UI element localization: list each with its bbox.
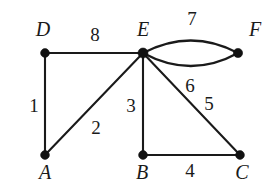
edge-weight-E-F-upper: 7 — [187, 8, 197, 29]
vertex-label-A: A — [37, 161, 52, 183]
edge-weight-B-E: 3 — [126, 95, 136, 116]
vertex-dot-C — [236, 151, 245, 160]
edge-weight-C-E: 5 — [204, 93, 214, 114]
vertex-label-E: E — [136, 18, 149, 40]
vertex-label-B: B — [136, 161, 148, 183]
vertex-dot-D — [41, 49, 50, 58]
vertex-label-group: A B C D E F — [35, 18, 262, 183]
edge-E-F-upper — [143, 41, 238, 54]
edge-weight-E-F-lower: 6 — [185, 75, 195, 96]
vertex-label-C: C — [235, 161, 249, 183]
graph-diagram: A B C D E F 1 2 3 4 5 6 7 8 — [0, 0, 270, 185]
vertex-dot-A — [41, 151, 50, 160]
edge-C-E — [143, 53, 240, 155]
vertex-dot-E — [138, 48, 148, 58]
edge-weight-D-E: 8 — [90, 24, 100, 45]
vertex-label-D: D — [35, 18, 51, 40]
edge-weight-A-D: 1 — [29, 95, 39, 116]
edge-E-F-lower — [143, 53, 238, 66]
edge-weight-A-E: 2 — [91, 117, 101, 138]
vertex-label-F: F — [248, 18, 262, 40]
edge-weight-B-C: 4 — [185, 160, 195, 181]
vertex-dot-B — [139, 151, 148, 160]
vertex-dot-F — [233, 48, 242, 57]
